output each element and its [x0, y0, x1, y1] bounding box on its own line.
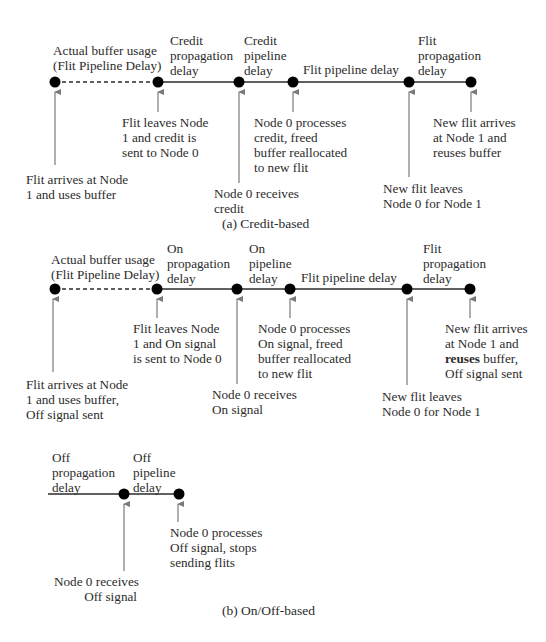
label-off-pipeline-delay: Off pipeline delay	[133, 450, 175, 495]
event-node0-processes-on: Node 0 processes On signal, freed buffer…	[258, 321, 351, 381]
emphasis-reuses: reuses	[445, 351, 480, 366]
event-node0-receives-on: Node 0 receives On signal	[212, 387, 297, 417]
caption-onoff-based: (b) On/Off-based	[222, 603, 315, 619]
event-node0-receives-credit: Node 0 receives credit	[214, 186, 299, 216]
event-flit-leaves-on-sent: Flit leaves Node 1 and On signal is sent…	[133, 321, 222, 366]
event-dot	[402, 284, 413, 295]
label-credit-propagation-delay: Credit propagation delay	[170, 33, 233, 78]
event-new-flit-arrives: New flit arrives at Node 1 and reuses bu…	[433, 115, 516, 160]
event-dot	[152, 284, 163, 295]
event-dot	[288, 77, 299, 88]
event-flit-arrives-off-sent: Flit arrives at Node 1 and uses buffer, …	[26, 377, 128, 422]
off-timeline	[48, 489, 185, 572]
label-flit-pipeline-delay: Flit pipeline delay	[301, 270, 397, 285]
event-dot	[234, 77, 245, 88]
label-flit-pipeline-delay: Flit pipeline delay	[303, 62, 399, 77]
label-off-propagation-delay: Off propagation delay	[52, 450, 115, 495]
event-node0-receives-off: Node 0 receives Off signal	[54, 574, 137, 604]
label-on-pipeline-delay: On pipeline delay	[249, 241, 291, 286]
label-credit-pipeline-delay: Credit pipeline delay	[244, 33, 286, 78]
event-dot	[404, 77, 415, 88]
event-dot	[119, 489, 130, 500]
event-dot	[50, 77, 61, 88]
event-node0-processes-off: Node 0 processes Off signal, stops sendi…	[170, 525, 262, 570]
label-flit-propagation-delay: Flit propagation delay	[423, 241, 486, 286]
event-dot	[50, 284, 61, 295]
event-new-flit-arrives-reuses: New flit arrives at Node 1 and reuses bu…	[445, 321, 528, 381]
event-flit-leaves: Flit leaves Node 1 and credit is sent to…	[122, 115, 208, 160]
event-dot	[466, 77, 477, 88]
label-actual-buffer-usage: Actual buffer usage (Flit Pipeline Delay…	[53, 43, 161, 73]
caption-credit-based: (a) Credit-based	[222, 216, 309, 232]
label-on-propagation-delay: On propagation delay	[167, 241, 230, 286]
event-dot	[153, 77, 164, 88]
label-actual-buffer-usage: Actual buffer usage (Flit Pipeline Delay…	[51, 252, 159, 282]
event-flit-arrives: Flit arrives at Node 1 and uses buffer	[26, 172, 128, 202]
event-dot	[232, 284, 243, 295]
event-new-flit-leaves: New flit leaves Node 0 for Node 1	[382, 389, 481, 419]
label-flit-propagation-delay: Flit propagation delay	[418, 33, 481, 78]
event-new-flit-leaves: New flit leaves Node 0 for Node 1	[383, 181, 482, 211]
event-node0-processes-credit: Node 0 processes credit, freed buffer re…	[254, 115, 347, 175]
